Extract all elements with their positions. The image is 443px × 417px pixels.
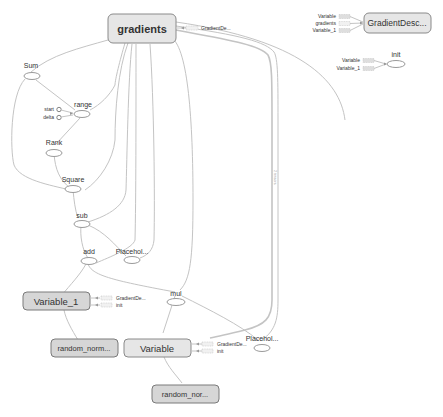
const-delta[interactable]: delta <box>43 114 61 120</box>
svg-text:Sum: Sum <box>24 62 39 69</box>
node-placeholder-2[interactable]: Placehol... <box>246 335 279 352</box>
aux-node-init[interactable]: init <box>387 51 405 68</box>
svg-text:init: init <box>217 348 224 354</box>
svg-text:init: init <box>116 302 123 308</box>
svg-text:Placehol...: Placehol... <box>116 248 149 255</box>
aux-node-gradient-descent[interactable]: GradientDesc... <box>364 13 431 33</box>
node-random-normal-1[interactable]: random_norm... <box>51 339 118 357</box>
node-mul[interactable]: mul <box>167 290 185 306</box>
svg-text:GradientDesc...: GradientDesc... <box>367 18 426 28</box>
svg-text:Variable_1: Variable_1 <box>34 296 79 307</box>
node-variable-1[interactable]: Variable_1 <box>23 292 90 310</box>
aux-gd-inputs: Variable gradients Variable_1 <box>312 13 363 33</box>
svg-text:GradientDe...: GradientDe... <box>217 341 247 347</box>
svg-text:Rank: Rank <box>46 139 63 146</box>
graph-canvas[interactable]: 2 tensors gradients GradientDe... Sum ra… <box>0 0 443 417</box>
svg-text:add: add <box>83 248 95 255</box>
node-sub[interactable]: sub <box>74 212 90 228</box>
node-random-normal-2[interactable]: random_nor... <box>152 385 219 403</box>
graph-edges <box>12 22 345 383</box>
svg-text:Variable_1: Variable_1 <box>312 27 336 33</box>
edge-label-2-tensors: 2 tensors <box>273 170 277 185</box>
svg-text:gradients: gradients <box>117 23 167 35</box>
stub-variable-1-init[interactable]: init <box>90 302 123 308</box>
svg-text:Variable: Variable <box>342 57 360 63</box>
aux-init-inputs: Variable Variable_1 <box>336 57 387 71</box>
svg-text:random_nor...: random_nor... <box>162 390 208 399</box>
node-square[interactable]: Square <box>62 176 85 193</box>
svg-text:init: init <box>392 51 401 58</box>
svg-text:random_norm...: random_norm... <box>58 344 111 353</box>
node-rank[interactable]: Rank <box>46 139 63 157</box>
svg-text:Variable: Variable <box>318 13 336 19</box>
stub-variable-1-gradientdescent[interactable]: GradientDe... <box>90 295 146 301</box>
svg-text:range: range <box>74 101 92 109</box>
svg-text:sub: sub <box>76 212 87 219</box>
svg-text:GradientDe...: GradientDe... <box>201 25 231 31</box>
const-start[interactable]: start <box>44 106 61 112</box>
stub-variable-gradientdescent[interactable]: GradientDe... <box>191 341 247 347</box>
node-variable[interactable]: Variable <box>124 339 191 357</box>
stub-variable-init[interactable]: init <box>191 348 224 354</box>
svg-text:Variable_1: Variable_1 <box>336 65 360 71</box>
node-placeholder-1[interactable]: Placehol... <box>116 248 149 264</box>
node-gradients[interactable]: gradients <box>108 14 176 43</box>
node-add[interactable]: add <box>81 248 97 265</box>
svg-text:Placehol...: Placehol... <box>246 335 279 342</box>
svg-text:Square: Square <box>62 176 85 184</box>
svg-text:GradientDe...: GradientDe... <box>116 295 146 301</box>
node-range[interactable]: range <box>74 101 92 118</box>
stub-gradients-gradientdescent[interactable]: GradientDe... <box>176 25 231 31</box>
svg-text:start: start <box>44 106 54 112</box>
svg-text:mul: mul <box>170 290 182 297</box>
svg-text:gradients: gradients <box>315 20 336 26</box>
svg-text:delta: delta <box>43 114 54 120</box>
svg-text:Variable: Variable <box>140 343 174 354</box>
